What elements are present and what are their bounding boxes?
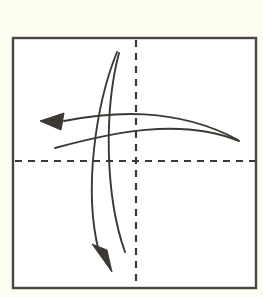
- diagram-canvas: [0, 0, 263, 297]
- origami-diagram: Origami fold diagram Square paper sheet …: [0, 0, 263, 297]
- square-paper-sheet: [13, 38, 256, 288]
